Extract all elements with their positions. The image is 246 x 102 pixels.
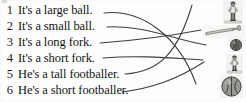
matching-exercise-page: 1 It's a large ball. 2 It's a small ball… bbox=[0, 0, 246, 102]
page-edge-shading bbox=[0, 0, 246, 102]
